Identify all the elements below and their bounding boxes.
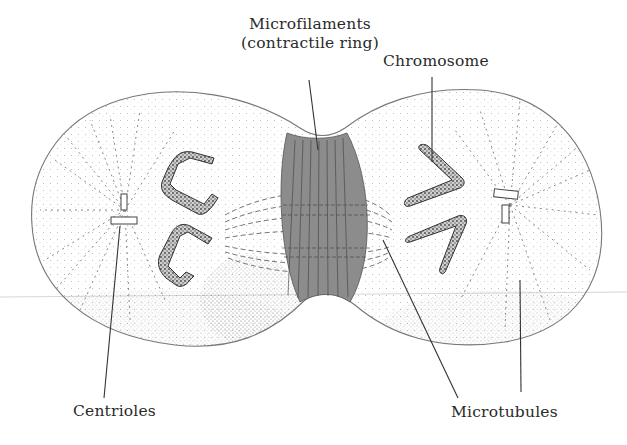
centriole-left-vertical <box>121 194 127 210</box>
contractile-ring <box>281 133 370 302</box>
label-microfilaments: Microfilaments (contractile ring) <box>230 15 390 53</box>
label-microtubules: Microtubules <box>451 403 558 422</box>
cytokinesis-diagram <box>0 0 627 445</box>
label-chromosome: Chromosome <box>383 52 489 71</box>
label-microfilaments-line2: (contractile ring) <box>230 34 390 53</box>
label-centrioles: Centrioles <box>73 402 156 421</box>
label-microfilaments-line1: Microfilaments <box>230 15 390 34</box>
centriole-right-vertical <box>502 205 509 223</box>
centriole-left-horizontal <box>111 217 137 224</box>
